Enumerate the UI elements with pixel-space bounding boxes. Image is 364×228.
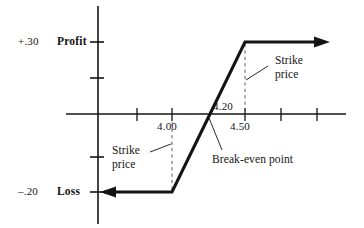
annotation-strike-price-left-line2: price bbox=[112, 157, 140, 171]
y-axis-loss-value: –.20 bbox=[18, 185, 38, 197]
annotation-strike-price-left: Strike price bbox=[112, 143, 140, 171]
leader-line-strike-left bbox=[150, 144, 171, 152]
annotation-strike-price-right-line2: price bbox=[275, 67, 303, 81]
payoff-chart-canvas bbox=[0, 0, 364, 228]
x-tick-label-strike-low: 4.00 bbox=[157, 120, 177, 132]
y-axis-loss-name: Loss bbox=[57, 185, 80, 198]
option-payoff-diagram: +.30 Profit –.20 Loss 4.00 4.20 4.50 Str… bbox=[0, 0, 364, 228]
x-tick-label-breakeven: 4.20 bbox=[213, 100, 233, 112]
annotation-strike-price-right: Strike price bbox=[275, 53, 303, 81]
y-axis-profit-value: +.30 bbox=[18, 35, 39, 47]
y-axis-profit-name: Profit bbox=[57, 35, 87, 48]
payoff-right-arrowhead bbox=[314, 36, 330, 47]
payoff-left-arrowhead bbox=[100, 186, 116, 197]
leader-line-breakeven bbox=[209, 118, 222, 150]
x-tick-label-strike-high: 4.50 bbox=[230, 120, 250, 132]
leader-line-strike-right bbox=[246, 66, 268, 80]
annotation-strike-price-right-line1: Strike bbox=[275, 53, 303, 67]
annotation-breakeven-point: Break-even point bbox=[212, 153, 293, 166]
annotation-strike-price-left-line1: Strike bbox=[112, 143, 140, 157]
